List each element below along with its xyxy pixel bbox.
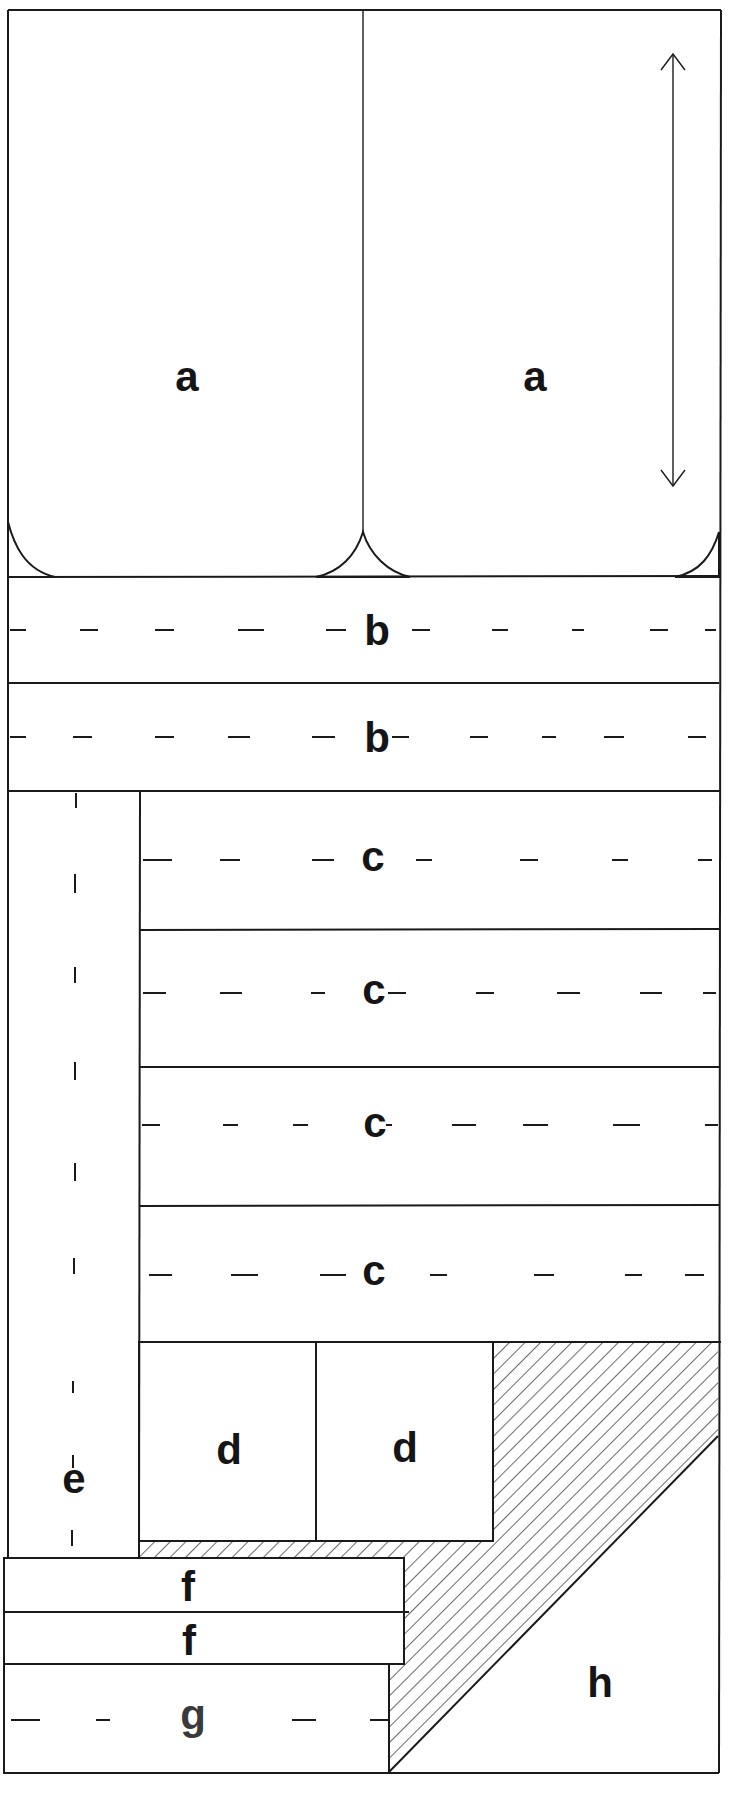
label-c4: c [362,1247,385,1294]
region-b2: b [10,714,706,761]
region-f1 [4,1558,404,1612]
region-a2: a [523,353,547,400]
label-c1: c [361,833,384,880]
region-b1: b [10,607,716,654]
label-a1: a [175,353,199,400]
label-b2: b [364,714,390,761]
region-c3: c [142,1099,718,1146]
line-c1-c2 [140,929,719,930]
label-c2: c [362,966,385,1013]
label-a2: a [523,353,547,400]
label-d2: d [392,1424,418,1471]
line-a-b [8,576,721,577]
region-c1: c [143,833,712,880]
label-c3: c [363,1099,386,1146]
label-f2: f [182,1617,197,1664]
region-f2 [4,1612,404,1664]
double-arrow-icon [661,54,685,486]
region-e: e [62,793,85,1546]
region-c4: c [149,1247,704,1294]
label-b1: b [364,607,390,654]
label-e: e [62,1455,85,1502]
label-d1: d [216,1426,242,1473]
label-h: h [587,1659,613,1706]
layout-diagram: a a b b e [0,0,748,1797]
region-c2: c [143,966,716,1013]
label-g: g [180,1691,206,1738]
centerline-e [72,793,76,1546]
label-f1: f [181,1563,196,1610]
region-a1: a [175,353,199,400]
line-c3-c4 [140,1205,719,1206]
